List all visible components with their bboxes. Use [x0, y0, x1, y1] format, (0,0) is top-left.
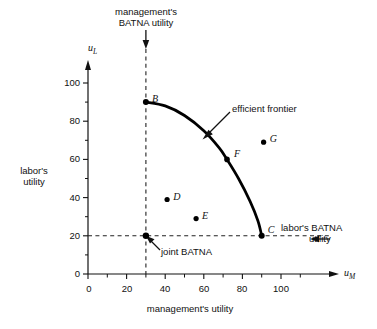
y-axis-symbol: uL — [88, 42, 97, 56]
x-tick-label-100: 100 — [267, 283, 295, 294]
point-label-c: C — [268, 224, 275, 235]
data-point-d[interactable] — [165, 197, 170, 202]
x-tick-label-80: 80 — [231, 283, 253, 294]
managements-batna-annotation: management's BATNA utility — [101, 6, 191, 28]
point-label-b: B — [152, 93, 158, 104]
data-point-f[interactable] — [224, 157, 230, 163]
data-point-b[interactable] — [143, 99, 149, 105]
efficient-frontier-label: efficient frontier — [232, 103, 297, 114]
y-tick-label-80: 80 — [60, 115, 80, 126]
y-axis-caption-line2: utility — [6, 176, 62, 187]
labors-batna-line1: labor's BATNA — [281, 222, 342, 233]
utility-frontier-chart: management's BATNA utility uL uM 0 20 40… — [0, 0, 377, 329]
point-label-f: F — [234, 148, 240, 159]
y-axis-caption: labor's utility — [6, 165, 62, 187]
y-tick-label-0: 0 — [72, 268, 80, 279]
x-tick-label-60: 60 — [193, 283, 215, 294]
y-tick-label-40: 40 — [60, 192, 80, 203]
managements-batna-line2: BATNA utility — [101, 17, 191, 28]
point-label-d: D — [173, 191, 180, 202]
data-point-c[interactable] — [259, 233, 265, 239]
x-tick-label-40: 40 — [154, 283, 176, 294]
x-axis-arrowhead — [329, 271, 339, 277]
labors-batna-line2: utility — [309, 233, 342, 244]
joint-batna-point[interactable] — [143, 233, 149, 239]
managements-batna-arrow — [143, 30, 150, 49]
x-tick-label-20: 20 — [116, 283, 138, 294]
point-label-e: E — [202, 210, 208, 221]
y-tick-label-60: 60 — [60, 153, 80, 164]
data-point-g[interactable] — [261, 140, 266, 145]
managements-batna-line1: management's — [101, 6, 191, 17]
efficient-frontier-arrow — [203, 112, 231, 140]
joint-batna-label: joint BATNA — [161, 246, 212, 257]
y-axis-caption-line1: labor's — [6, 165, 62, 176]
y-tick-label-100: 100 — [54, 77, 80, 88]
x-axis-symbol-sub: M — [349, 272, 355, 281]
y-axis-symbol-sub: L — [93, 47, 97, 56]
y-axis-arrowhead — [85, 60, 91, 70]
point-label-g: G — [270, 133, 277, 144]
x-tick-label-0: 0 — [83, 283, 95, 294]
y-tick-label-20: 20 — [60, 230, 80, 241]
x-axis-symbol: uM — [344, 267, 355, 281]
x-axis-caption: management's utility — [120, 303, 260, 314]
labors-batna-label: labor's BATNA utility — [281, 222, 342, 244]
data-point-e[interactable] — [194, 216, 199, 221]
